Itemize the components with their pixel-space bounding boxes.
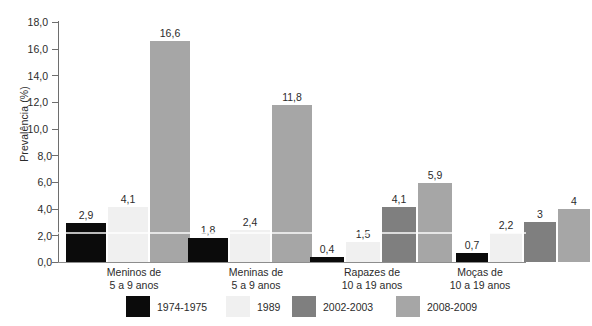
legend-swatch-icon <box>292 296 316 317</box>
legend-item-2002-2003: 2002-2003 <box>292 296 373 317</box>
bar-g1-1974-1975 <box>66 223 106 262</box>
bar-g3-1974-1975 <box>310 257 344 262</box>
bar-g3-2008-2009 <box>418 183 452 262</box>
category-label-group-3: Rapazes de 10 a 19 anos <box>312 266 432 292</box>
bar-value: 0,7 <box>454 239 490 251</box>
bar-g4-2008-2009 <box>558 209 590 262</box>
bar-value: 4,1 <box>108 193 148 205</box>
bar-value: 5,9 <box>416 169 454 181</box>
category-label-line1: Meninos de <box>74 266 194 279</box>
y-tick-label: 10,0 <box>14 123 48 135</box>
bar-value: 4 <box>556 195 592 207</box>
bar-g4-2002-2003 <box>524 222 556 262</box>
legend-label: 1974-1975 <box>157 301 207 313</box>
y-tick-label: 12,0 <box>14 96 48 108</box>
bar-value: 2,9 <box>66 209 106 221</box>
bar-value: 0,4 <box>308 243 346 255</box>
y-tick-label: 6,0 <box>18 176 52 188</box>
x-axis-line <box>58 262 526 263</box>
y-tick-label: 14,0 <box>14 70 48 82</box>
bar-value: 2,2 <box>488 219 524 231</box>
bar-g2-1974-1975 <box>188 238 228 262</box>
category-label-line1: Moças de <box>420 266 540 279</box>
legend-item-1974-1975: 1974-1975 <box>126 296 207 317</box>
bar-value: 16,6 <box>150 27 190 39</box>
bar-g1-1989 <box>108 207 148 262</box>
bar-value: 1,8 <box>188 224 228 236</box>
y-tick-label: 0,0 <box>18 256 52 268</box>
category-label-group-2: Meninas de 5 a 9 anos <box>196 266 316 292</box>
bar-g2-1989 <box>230 230 270 262</box>
bar-value: 4,1 <box>380 193 418 205</box>
category-label-group-1: Meninos de 5 a 9 anos <box>74 266 194 292</box>
legend: 1974-1975 1989 2002-2003 2008-2009 <box>0 296 529 322</box>
bar-g4-1974-1975 <box>456 253 488 262</box>
legend-label: 1989 <box>257 301 280 313</box>
bar-g3-1989 <box>346 242 380 262</box>
category-label-line2: 10 a 19 anos <box>312 279 432 292</box>
category-label-line1: Meninas de <box>196 266 316 279</box>
bar-g4-1989 <box>490 233 522 262</box>
plot-area: 2,9 4,1 16,6 1,8 2,4 11,8 0,4 1,5 4,1 5,… <box>58 22 526 262</box>
bar-g2-2008-2009 <box>272 105 312 262</box>
y-tick-label: 18,0 <box>14 16 48 28</box>
legend-label: 2008-2009 <box>427 301 477 313</box>
legend-item-2008-2009: 2008-2009 <box>396 296 477 317</box>
category-label-line2: 5 a 9 anos <box>196 279 316 292</box>
legend-swatch-icon <box>396 296 420 317</box>
legend-swatch-icon <box>226 296 250 317</box>
category-label-line2: 10 a 19 anos <box>420 279 540 292</box>
y-tick-label: 16,0 <box>14 43 48 55</box>
legend-swatch-icon <box>126 296 150 317</box>
legend-item-1989: 1989 <box>226 296 280 317</box>
y-tick-label: 4,0 <box>18 203 52 215</box>
bar-value: 11,8 <box>272 91 312 103</box>
bar-g1-2008-2009 <box>150 41 190 262</box>
legend-label: 2002-2003 <box>323 301 373 313</box>
category-label-line2: 5 a 9 anos <box>74 279 194 292</box>
bar-g3-2002-2003 <box>382 207 416 262</box>
category-label-group-4: Moças de 10 a 19 anos <box>420 266 540 292</box>
bar-value: 1,5 <box>344 228 382 240</box>
bar-value: 3 <box>522 208 558 220</box>
y-tick-label: 8,0 <box>18 150 52 162</box>
y-tick-label: 2,0 <box>18 230 52 242</box>
category-label-line1: Rapazes de <box>312 266 432 279</box>
bar-value: 2,4 <box>230 216 270 228</box>
